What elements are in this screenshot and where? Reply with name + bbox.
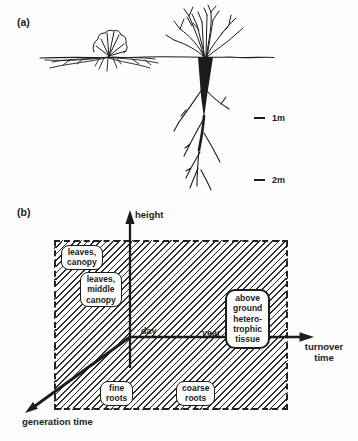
rosette-plant [93,30,127,56]
box-leaves-canopy: leaves, canopy [61,245,103,270]
ground-line [40,57,274,58]
scale-tick-dash [254,117,265,119]
scale-label-1m: 1m [272,113,285,123]
panel-b-label: (b) [17,206,30,218]
shrub-branches [166,5,243,57]
height-axis-label: height [135,210,164,221]
box-above-ground-heterotrophic-tissue: above ground hetero- trophic tissue [225,289,270,349]
box-fine-roots: fine roots [100,381,133,406]
scale-marker-2m: 2m [254,175,285,185]
box-leaves-middle-canopy: leaves, middle canopy [80,272,122,307]
scale-marker-1m: 1m [254,113,285,123]
turnover-axis-label: turnover time [300,342,348,364]
tick-day: day [141,326,157,336]
scale-label-2m: 2m [272,175,285,185]
figure: (a) 1m 2m (b) height turnover time gener… [0,0,358,441]
panel-a-label: (a) [17,16,30,28]
taproot [198,57,213,118]
panel-a-illustration [40,5,274,190]
scale-tick-dash [254,179,265,181]
box-coarse-roots: coarse roots [176,381,215,406]
shallow-roots [45,57,158,71]
deep-roots [174,88,229,190]
taproot-stem [199,116,204,150]
generation-axis-label: generation time [22,417,93,428]
tick-year: year [202,328,221,338]
